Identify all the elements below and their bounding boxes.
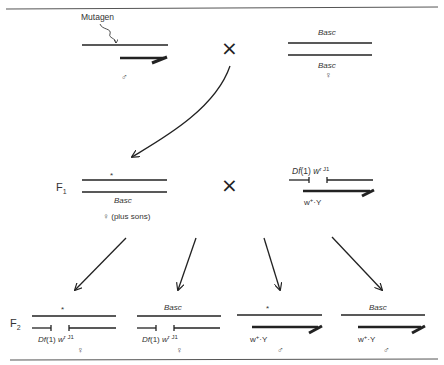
arrow-f2-2: [178, 238, 196, 290]
female-bottom-label: Basc: [318, 62, 336, 70]
f2-progeny-3-y: w+·Y: [250, 334, 267, 344]
arrow-f2-4: [332, 237, 382, 290]
f1-female-symbol: ♀ (plus sons): [103, 213, 150, 221]
bottom-rule: [10, 359, 438, 360]
f2-progeny-1-top: *: [61, 306, 64, 314]
arrow-f2-1: [75, 238, 126, 290]
f2-progeny-1-df: Df(1) wr J1: [38, 334, 74, 344]
curved-arrow-to-f1: [132, 66, 230, 157]
f1-female-label: Basc: [114, 197, 132, 205]
f1-mutation-mark: *: [110, 172, 113, 180]
f1-male-y-label: w+·Y: [304, 197, 321, 207]
f2-progeny-2-top: Basc: [164, 304, 182, 312]
mutagen-squiggle: [100, 24, 116, 43]
f2-progeny-4-symbol: ♂: [383, 346, 390, 355]
f2-progeny-2-symbol: ♀: [176, 346, 183, 355]
f2-progeny-3-symbol: ♂: [277, 346, 284, 355]
f2-progeny-2-df: Df(1) wr J1: [142, 334, 178, 344]
f1-label: F1: [56, 182, 67, 195]
f2-progeny-3-top: *: [266, 305, 269, 313]
f2-label: F2: [10, 318, 21, 331]
f2-progeny-4-y: w+·Y: [358, 334, 375, 344]
female-top-label: Basc: [318, 29, 336, 37]
mutagen-label: Mutagen: [81, 13, 114, 22]
female-symbol: ♀: [325, 71, 332, 80]
f2-progeny-1-symbol: ♀: [77, 346, 84, 355]
f2-progeny-4-top: Basc: [369, 304, 387, 312]
cross-symbol-f1: ×: [221, 175, 238, 195]
f1-male-df-label: Df(1) wr J1: [292, 166, 329, 176]
arrow-f2-3: [264, 238, 280, 290]
cross-symbol-parental: ×: [221, 38, 238, 58]
top-rule: [6, 7, 438, 9]
male-symbol: ♂: [121, 73, 128, 82]
